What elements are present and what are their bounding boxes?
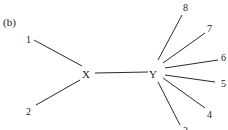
edge-x-y: [95, 72, 148, 73]
panel-label: (b): [3, 16, 16, 29]
node-x: X: [82, 68, 90, 80]
node-3: 3: [183, 125, 188, 130]
edge-y-5: [165, 75, 215, 82]
node-4: 4: [207, 109, 212, 120]
node-7: 7: [207, 23, 212, 34]
node-2: 2: [26, 106, 31, 117]
node-6: 6: [221, 52, 226, 63]
tree-diagram: (b) 1 2 X Y 8 7 6 5 4 3: [0, 0, 228, 130]
edge-y-6: [165, 60, 218, 68]
edge-y-8: [158, 15, 182, 60]
node-8: 8: [183, 2, 188, 13]
node-y: Y: [149, 68, 157, 80]
edges: [34, 15, 218, 125]
edge-1-x: [34, 40, 82, 66]
edge-2-x: [36, 80, 80, 105]
edge-y-3: [158, 82, 180, 125]
node-1: 1: [26, 34, 31, 45]
edge-y-7: [163, 33, 205, 63]
node-5: 5: [221, 78, 226, 89]
